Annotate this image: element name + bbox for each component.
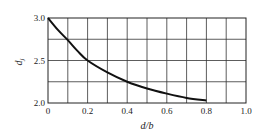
y-tick-label: 2.5 [34, 56, 46, 66]
x-tick-labels: 00.20.40.60.81.0 [46, 106, 252, 116]
x-tick-label: 1.0 [240, 106, 252, 116]
x-tick-label: 0.4 [122, 106, 134, 116]
x-tick-label: 0.2 [82, 106, 93, 116]
chart: 00.20.40.60.81.0 2.02.53.0 d/b dj [0, 0, 267, 140]
y-axis-label: dj [13, 58, 26, 65]
x-tick-label: 0.6 [161, 106, 173, 116]
svg-text:dj: dj [13, 58, 26, 65]
y-tick-label: 3.0 [34, 13, 46, 23]
y-tick-label: 2.0 [34, 98, 46, 108]
x-tick-label: 0 [46, 106, 51, 116]
x-axis-label: d/b [141, 120, 154, 131]
line-chart: 00.20.40.60.81.0 2.02.53.0 d/b dj [0, 0, 267, 140]
x-tick-label: 0.8 [201, 106, 213, 116]
y-tick-labels: 2.02.53.0 [34, 13, 46, 108]
grid-lines [48, 18, 246, 103]
